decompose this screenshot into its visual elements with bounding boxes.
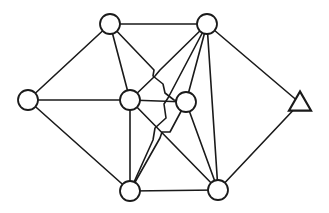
edge-top-left-to-left <box>28 24 110 100</box>
edges-layer <box>28 24 300 191</box>
edge-top-left-to-mid-right <box>110 24 186 102</box>
edge-bottom-left-to-bottom-right <box>130 190 218 191</box>
edge-mid-right-to-bottom-left <box>130 102 186 191</box>
graph-diagram <box>0 0 329 213</box>
node-bottom-left-circle <box>120 181 140 201</box>
node-bottom-right-circle <box>208 180 228 200</box>
node-mid-right-circle <box>176 92 196 112</box>
edge-mid-left-to-top-right <box>130 24 207 100</box>
node-left-circle <box>18 90 38 110</box>
node-top-right-circle <box>197 14 217 34</box>
node-triangle-triangle-icon <box>289 91 311 110</box>
edge-bottom-right-to-triangle <box>218 103 300 190</box>
node-top-left-circle <box>100 14 120 34</box>
edge-top-right-to-triangle <box>207 24 300 103</box>
edge-left-to-bottom-left <box>28 100 130 191</box>
edge-mid-left-to-bottom-right <box>130 100 218 190</box>
edge-top-right-to-mid-right <box>186 24 207 102</box>
node-mid-left-circle <box>120 90 140 110</box>
